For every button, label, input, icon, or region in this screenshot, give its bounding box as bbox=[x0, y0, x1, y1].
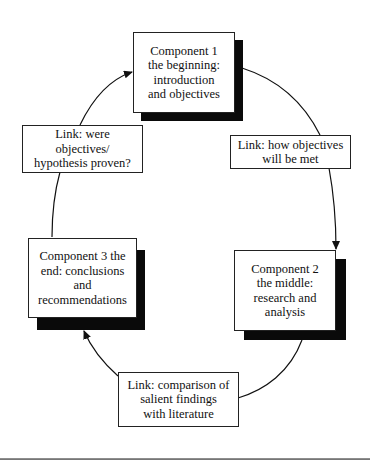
component-1-label: Component 1 the beginning: introduction … bbox=[148, 44, 220, 102]
arrow-link23-to-c3 bbox=[84, 331, 118, 376]
link-12-label: Link: how objectives will be met bbox=[238, 138, 344, 167]
link-comparison-findings: Link: comparison of salient findings wit… bbox=[118, 372, 239, 427]
link-objectives-proven: Link: were objectives/ hypothesis proven… bbox=[22, 125, 143, 173]
component-1-box: Component 1 the beginning: introduction … bbox=[133, 32, 235, 113]
bottom-rule bbox=[0, 458, 370, 460]
arrow-link31-to-c1 bbox=[80, 72, 132, 125]
component-2-box: Component 2 the middle: research and ana… bbox=[234, 250, 336, 331]
connector-c2-to-link23 bbox=[238, 340, 302, 398]
link-31-label: Link: were objectives/ hypothesis proven… bbox=[34, 127, 131, 171]
connector-c1-to-link12 bbox=[242, 68, 320, 135]
component-2-label: Component 2 the middle: research and ana… bbox=[251, 262, 319, 320]
link-how-objectives-met: Link: how objectives will be met bbox=[230, 135, 351, 169]
component-3-label: Component 3 the end: conclusions and rec… bbox=[38, 249, 127, 307]
arrow-link12-to-c2 bbox=[329, 168, 336, 249]
component-3-box: Component 3 the end: conclusions and rec… bbox=[28, 238, 137, 318]
link-23-label: Link: comparison of salient findings wit… bbox=[127, 378, 229, 422]
connector-c3-to-link31 bbox=[52, 172, 60, 237]
